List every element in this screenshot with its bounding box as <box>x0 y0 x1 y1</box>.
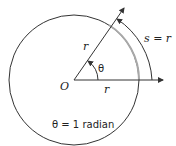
origin-label: O <box>60 80 69 93</box>
angle-label: θ <box>98 63 104 74</box>
arc-arrow <box>117 19 152 80</box>
radian-diagram: O r r θ s = r θ = 1 radian <box>0 0 176 146</box>
caption: θ = 1 radian <box>52 119 114 130</box>
angle-arc <box>88 61 98 80</box>
radius-bottom-label: r <box>104 83 110 96</box>
arc-s <box>109 25 139 80</box>
arc-label: s = r <box>144 32 172 45</box>
radius-top-label: r <box>83 40 89 53</box>
